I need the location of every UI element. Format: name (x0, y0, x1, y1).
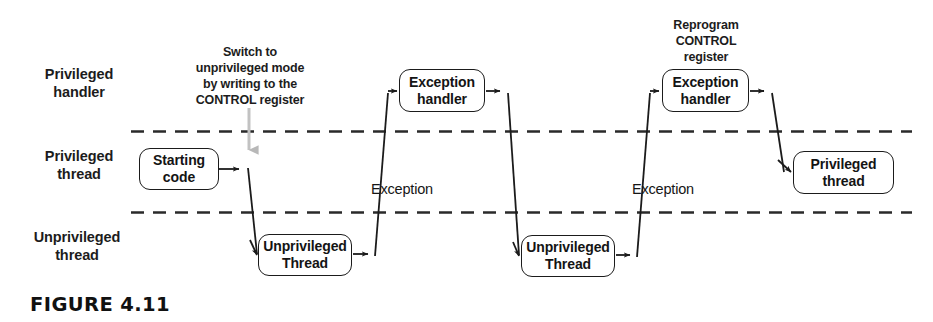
lane-label-privileged-handler: Privileged handler (26, 66, 132, 101)
figure-caption: FIGURE 4.11 (30, 293, 170, 316)
edge-label-exception-2: Exception (632, 182, 694, 197)
edge-drop-to-unpriv2 (508, 93, 519, 255)
node-starting-code[interactable]: Starting code (139, 148, 219, 190)
annotation-reprogram-control: Reprogram CONTROL register (643, 17, 769, 65)
node-unprivileged-thread-2[interactable]: Unprivileged Thread (521, 235, 615, 277)
edge-rise-to-handler1 (375, 93, 388, 256)
node-unprivileged-thread-1[interactable]: Unprivileged Thread (258, 234, 352, 276)
node-exception-handler-1[interactable]: Exception handler (399, 69, 485, 112)
lane-label-unprivileged-thread: Unprivileged thread (18, 229, 136, 264)
lane-label-privileged-thread: Privileged thread (26, 148, 132, 183)
edge-label-exception-1: Exception (371, 182, 433, 197)
annotation-switch-to-unprivileged: Switch to unprivileged mode by writing t… (183, 44, 317, 108)
edge-rise-to-handler2 (637, 93, 650, 257)
node-exception-handler-2[interactable]: Exception handler (662, 69, 749, 112)
figure-container: Privileged handler Privileged thread Unp… (0, 0, 933, 322)
edge-drop-to-unpriv1 (248, 168, 257, 254)
node-privileged-thread-end[interactable]: Privileged thread (793, 151, 894, 194)
